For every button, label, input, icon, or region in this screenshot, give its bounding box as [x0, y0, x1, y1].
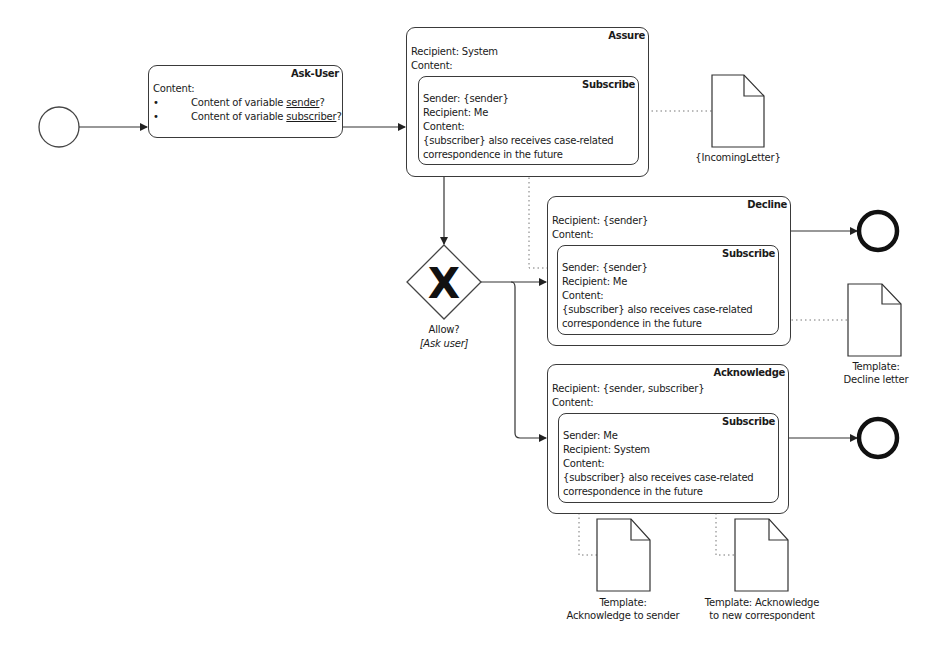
task-title: Decline [747, 199, 787, 210]
task-ask-user[interactable]: Ask-User Content: •Content of variable s… [148, 65, 343, 138]
sender-text: Sender: {sender} [562, 261, 648, 275]
ack-sender-doc-label: Template: Acknowledge to sender [558, 596, 688, 622]
ack-new-doc-label: Template: Acknowledge to new corresponde… [697, 596, 827, 622]
message-title: Subscribe [582, 79, 635, 90]
content-label: Content: [423, 120, 465, 134]
recipient-text: Recipient: System [563, 443, 650, 457]
gateway-label: Allow? [404, 323, 484, 336]
message-subscribe[interactable]: Subscribe Sender: {sender} Recipient: Me… [557, 245, 779, 335]
sender-text: Sender: Me [563, 429, 618, 443]
document-incoming-letter-icon[interactable] [712, 75, 764, 147]
task-assure[interactable]: Assure Recipient: System Content: Subscr… [406, 27, 649, 177]
incoming-letter-label: {IncomingLetter} [692, 151, 784, 164]
start-event[interactable] [39, 107, 79, 147]
document-ack-new-icon[interactable] [735, 519, 788, 591]
message-subscribe[interactable]: Subscribe Sender: Me Recipient: System C… [558, 413, 779, 503]
task-decline[interactable]: Decline Recipient: {sender} Content: Sub… [547, 196, 791, 346]
document-ack-sender-icon[interactable] [597, 519, 650, 591]
recipient-text: Recipient: Me [423, 106, 488, 120]
task-title: Acknowledge [713, 367, 785, 378]
message-title: Subscribe [722, 248, 775, 259]
flow-gateway-to-acknowledge [511, 282, 546, 438]
content-text: {subscriber} also receives case-related [423, 134, 614, 148]
recipient-text: Recipient: Me [562, 275, 627, 289]
end-event-acknowledge[interactable] [859, 419, 897, 457]
gateway-sublabel: [Ask user] [404, 337, 484, 350]
content-text: {subscriber} also receives case-related [562, 303, 753, 317]
association-ack-new [716, 513, 735, 555]
content-label: Content: [552, 396, 594, 410]
association-ack-sender [579, 513, 597, 555]
content-label: Content: [153, 82, 195, 96]
content-label: Content: [562, 289, 604, 303]
task-title: Assure [608, 30, 645, 41]
sender-text: Sender: {sender} [423, 92, 509, 106]
content-text: correspondence in the future [423, 148, 563, 162]
recipient-text: Recipient: {sender, subscriber} [552, 382, 704, 396]
content-text: correspondence in the future [563, 485, 703, 499]
content-label: Content: [563, 457, 605, 471]
recipient-text: Recipient: {sender} [552, 214, 648, 228]
message-subscribe[interactable]: Subscribe Sender: {sender} Recipient: Me… [418, 76, 639, 165]
content-text: {subscriber} also receives case-related [563, 471, 754, 485]
task-acknowledge[interactable]: Acknowledge Recipient: {sender, subscrib… [547, 364, 789, 514]
message-title: Subscribe [722, 416, 775, 427]
decline-letter-label: Template: Decline letter [826, 360, 926, 386]
content-text: correspondence in the future [562, 317, 702, 331]
gateway-x-icon: X [428, 259, 460, 308]
bullet-item: •Content of variable subscriber? [153, 110, 342, 124]
recipient-text: Recipient: System [411, 45, 498, 59]
bullet-item: •Content of variable sender? [153, 96, 325, 110]
content-label: Content: [411, 59, 453, 73]
task-title: Ask-User [291, 68, 339, 79]
document-decline-letter-icon[interactable] [848, 284, 901, 356]
end-event-decline[interactable] [859, 212, 897, 250]
content-label: Content: [552, 228, 594, 242]
